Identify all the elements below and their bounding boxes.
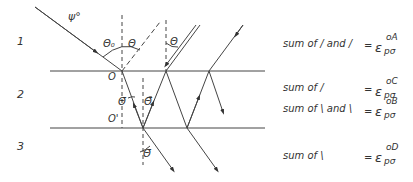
legend-eps-A: ε <box>375 40 382 55</box>
legend-eq-B: = <box>364 106 372 117</box>
legend-sub-D: pσ <box>384 156 395 166</box>
legend-sub-B: pσ <box>384 110 395 120</box>
angle-theta-bar-2: Θ̄ <box>144 96 152 107</box>
legend-eps-C: ε <box>375 84 382 99</box>
angle-psi: ψ° <box>68 10 81 23</box>
angle-theta0: Θ₀ <box>103 38 115 49</box>
legend-text-B: sum of \ and \ <box>283 103 352 114</box>
legend-eps-D: ε <box>375 150 382 165</box>
legend-text-D: sum of \ <box>283 150 324 161</box>
legend-eq-D: = <box>364 152 372 163</box>
angle-theta: Θ <box>128 38 136 49</box>
legend-sup-C: oC <box>386 76 398 86</box>
legend-text-A: sum of / and / <box>283 38 352 49</box>
legend-text-C: sum of / <box>283 82 324 93</box>
point-O: O <box>108 71 116 82</box>
legend-eq-A: = <box>364 40 372 51</box>
layer-label-1: 1 <box>17 35 24 48</box>
angle-theta-bar-1: Θ̄ <box>118 96 126 107</box>
angle-theta-bar-3: Θ̄ <box>143 148 151 159</box>
legend-sub-A: pσ <box>384 46 395 56</box>
legend-sup-D: oD <box>386 142 398 152</box>
legend-eq-C: = <box>364 84 372 95</box>
legend-eps-B: ε <box>375 104 382 119</box>
legend-sup-B: oB <box>386 96 398 106</box>
layer-label-2: 2 <box>17 88 24 101</box>
diagram-canvas <box>0 0 413 182</box>
point-O-prime: O' <box>108 113 119 124</box>
legend-sup-A: oA <box>386 32 398 42</box>
layer-label-3: 3 <box>17 140 24 153</box>
angle-theta-2: Θ <box>170 36 178 47</box>
